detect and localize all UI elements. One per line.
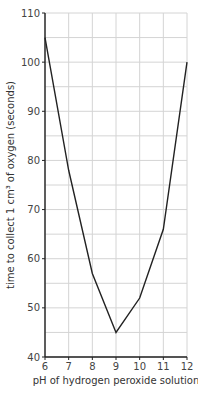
y-tick-label: 40 bbox=[27, 352, 40, 363]
y-tick-label: 80 bbox=[27, 155, 40, 166]
y-tick-label: 50 bbox=[27, 302, 40, 313]
y-tick-label: 110 bbox=[21, 8, 40, 19]
x-tick-label: 11 bbox=[157, 361, 170, 372]
x-tick-label: 6 bbox=[42, 361, 48, 372]
x-tick-label: 7 bbox=[65, 361, 71, 372]
x-tick-label: 10 bbox=[133, 361, 146, 372]
y-tick-label: 60 bbox=[27, 253, 40, 264]
x-axis-label: pH of hydrogen peroxide solution bbox=[33, 375, 198, 386]
y-tick-label: 90 bbox=[27, 106, 40, 117]
x-tick-label: 12 bbox=[181, 361, 194, 372]
y-tick-label: 100 bbox=[21, 57, 40, 68]
line-chart: 405060708090100110 6789101112 time to co… bbox=[0, 0, 198, 396]
y-tick-labels: 405060708090100110 bbox=[21, 8, 40, 363]
x-tick-labels: 6789101112 bbox=[42, 361, 194, 372]
gridlines bbox=[45, 13, 187, 357]
x-tick-label: 9 bbox=[113, 361, 119, 372]
x-tick-label: 8 bbox=[89, 361, 95, 372]
y-axis-label: time to collect 1 cm³ of oxygen (seconds… bbox=[5, 81, 16, 289]
y-tick-label: 70 bbox=[27, 204, 40, 215]
